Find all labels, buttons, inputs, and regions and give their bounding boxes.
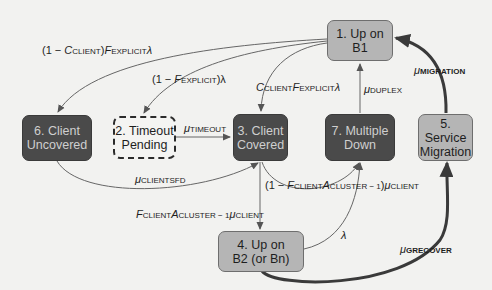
- label-5-to-1: μMIGRATION: [414, 64, 465, 76]
- label-4-to-5: μGRECOVER: [400, 243, 452, 255]
- node-up-on-b2: 4. Up on B2 (or Bn): [218, 231, 304, 272]
- label-2-to-3: μTIMEOUT: [184, 122, 226, 134]
- node-service-migration: 5. Service Migration: [418, 114, 473, 161]
- edge-1-to-3: [261, 43, 327, 111]
- edge-4-to-7: [304, 163, 360, 249]
- label-1-to-3: CCLIENTFEXPLICITλ: [256, 81, 340, 93]
- node-client-covered: 3. Client Covered: [233, 114, 288, 161]
- label-7-to-1: μDUPLEX: [364, 83, 402, 95]
- label-3-to-4: FCLIENTACLUSTER − 1μCLIENT: [136, 208, 264, 220]
- label-3-to-7: (1 − FCLIENTACLUSTER − 1)μCLIENT: [265, 179, 419, 191]
- node-multiple-down: 7. Multiple Down: [325, 114, 395, 161]
- label-4-to-7: λ: [341, 229, 346, 241]
- node-timeout-pending: 2. Timeout Pending: [113, 116, 176, 159]
- label-1-to-2: (1 − FEXPLICIT)λ: [152, 73, 226, 85]
- node-up-on-b1: 1. Up on B1: [327, 20, 393, 61]
- node-client-uncovered: 6. Client Uncovered: [22, 115, 92, 161]
- label-1-to-6: (1 − CCLIENT)FEXPLICITλ: [42, 44, 152, 56]
- state-transition-diagram: 1. Up on B1 2. Timeout Pending 3. Client…: [0, 0, 492, 290]
- label-6-to-3: μCLIENTSFD: [135, 173, 185, 185]
